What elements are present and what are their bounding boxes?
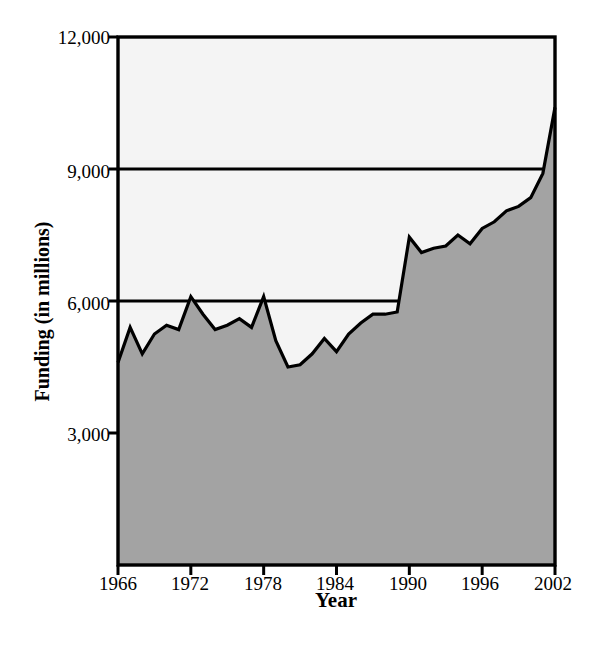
- y-tick-label-3000: 3,000: [20, 424, 110, 446]
- plot-area: [0, 0, 608, 648]
- y-tick-label-6000: 6,000: [20, 293, 110, 315]
- x-axis-title: Year: [117, 588, 555, 613]
- y-tick-label-9000: 9,000: [20, 161, 110, 183]
- chart-figure: Funding (in millions) 12,000 9,000 6,000…: [0, 0, 608, 648]
- y-tick-label-12000: 12,000: [20, 27, 110, 49]
